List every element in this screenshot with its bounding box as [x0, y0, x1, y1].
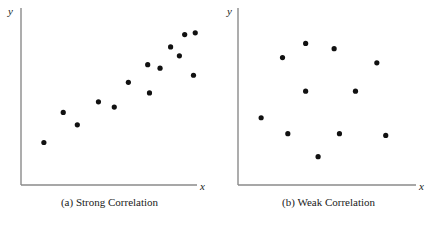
x-axis-label: x [419, 181, 424, 192]
data-point [41, 140, 46, 145]
data-point [316, 154, 321, 159]
data-point [126, 80, 131, 85]
data-point-group-a [41, 30, 198, 145]
scatter-plot-a [0, 0, 219, 225]
data-point [332, 46, 337, 51]
data-point [374, 60, 379, 65]
axes-a [21, 8, 197, 185]
y-axis-label: y [8, 6, 13, 17]
data-point [337, 131, 342, 136]
panel-strong-correlation: y x (a) Strong Correlation [0, 0, 219, 225]
panel-caption: (a) Strong Correlation [0, 196, 219, 208]
data-point [177, 53, 182, 58]
data-point [280, 55, 285, 60]
data-point [193, 30, 198, 35]
data-point [303, 89, 308, 94]
data-point [383, 133, 388, 138]
panel-caption: (b) Weak Correlation [219, 196, 438, 208]
y-axis-label: y [227, 6, 232, 17]
x-axis-label: x [200, 181, 205, 192]
data-point [191, 73, 196, 78]
panel-weak-correlation: y x (b) Weak Correlation [219, 0, 438, 225]
axes-b [238, 8, 416, 185]
data-point-group-b [259, 41, 389, 159]
data-point [168, 44, 173, 49]
data-point [303, 41, 308, 46]
data-point [259, 115, 264, 120]
scatter-plot-b [219, 0, 438, 225]
data-point [75, 122, 80, 127]
data-point [285, 131, 290, 136]
correlation-figure: y x (a) Strong Correlation y x (b) Weak … [0, 0, 438, 225]
data-point [353, 89, 358, 94]
data-point [145, 62, 150, 67]
data-point [96, 99, 101, 104]
data-point [112, 105, 117, 110]
data-point [182, 32, 187, 37]
data-point [157, 66, 162, 71]
data-point [147, 90, 152, 95]
data-point [61, 110, 66, 115]
